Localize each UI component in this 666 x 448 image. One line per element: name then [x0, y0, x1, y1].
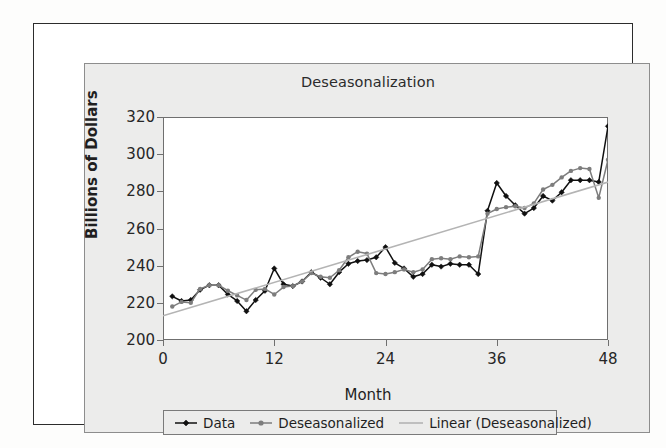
legend-swatch-circle	[249, 417, 273, 429]
x-tick-label: 24	[376, 350, 395, 368]
data-point-marker	[513, 204, 517, 208]
chart-title: Deseasonalization	[85, 74, 651, 90]
data-point-marker	[541, 187, 545, 191]
data-point-marker	[448, 257, 452, 261]
y-tick-label: 240	[117, 257, 155, 275]
data-point-marker	[402, 267, 406, 271]
data-point-marker	[263, 287, 267, 291]
data-point-marker	[587, 177, 592, 182]
series-line	[172, 160, 608, 307]
data-point-marker	[291, 284, 295, 288]
data-point-marker	[495, 207, 499, 211]
chart-canvas	[163, 117, 608, 340]
data-point-marker	[605, 124, 608, 129]
legend-label: Data	[203, 415, 235, 431]
chart-legend: DataDeseasonalizedLinear (Deseasonalized…	[163, 410, 557, 435]
data-point-marker	[550, 183, 554, 187]
data-point-marker	[300, 279, 304, 283]
x-tick-mark	[497, 340, 498, 346]
screenshot-root: Deseasonalization Billions of Dollars 20…	[0, 0, 666, 448]
data-point-marker	[226, 289, 230, 293]
data-point-marker	[383, 272, 387, 276]
plot-border	[164, 118, 608, 340]
data-point-marker	[476, 254, 480, 258]
figure-outer-frame: Deseasonalization Billions of Dollars 20…	[33, 23, 633, 425]
data-point-marker	[216, 283, 220, 287]
data-point-marker	[457, 254, 461, 258]
x-tick-mark	[386, 340, 387, 346]
legend-label: Linear (Deseasonalized)	[429, 415, 592, 431]
data-point-marker	[170, 304, 174, 308]
data-point-marker	[393, 270, 397, 274]
x-tick-mark	[274, 340, 275, 346]
data-point-marker	[179, 300, 183, 304]
y-axis-title: Billions of Dollars	[83, 90, 101, 239]
legend-item-2[interactable]: Deseasonalized	[249, 415, 384, 431]
data-point-marker	[328, 276, 332, 280]
y-tick-mark	[157, 229, 163, 230]
trendline	[163, 182, 608, 316]
series-line	[172, 126, 608, 311]
y-tick-label: 300	[117, 145, 155, 163]
x-tick-label: 36	[487, 350, 506, 368]
legend-label: Deseasonalized	[278, 415, 384, 431]
y-tick-label: 320	[117, 108, 155, 126]
data-point-marker	[189, 301, 193, 305]
data-point-marker	[606, 158, 608, 162]
chart-panel: Deseasonalization Billions of Dollars 20…	[84, 63, 650, 433]
x-tick-label: 12	[265, 350, 284, 368]
legend-swatch-diamond	[174, 417, 198, 429]
data-point-marker	[170, 294, 175, 299]
plot-area	[163, 117, 608, 340]
y-tick-mark	[157, 266, 163, 267]
x-tick-mark	[163, 340, 164, 346]
data-point-marker	[355, 258, 360, 263]
data-point-marker	[207, 283, 211, 287]
series-3	[163, 182, 608, 316]
data-point-marker	[198, 287, 202, 291]
x-tick-label: 0	[158, 350, 168, 368]
data-point-marker	[597, 196, 601, 200]
series-2	[170, 158, 608, 309]
data-point-marker	[485, 211, 489, 215]
data-point-marker	[504, 205, 508, 209]
data-point-marker	[448, 261, 453, 266]
legend-item-1[interactable]: Data	[174, 415, 235, 431]
x-axis-title: Month	[85, 386, 651, 404]
data-point-marker	[430, 257, 434, 261]
y-tick-label: 200	[117, 331, 155, 349]
data-point-marker	[578, 166, 582, 170]
y-tick-label: 220	[117, 294, 155, 312]
data-point-marker	[318, 275, 322, 279]
series-1	[170, 124, 608, 314]
data-point-marker	[355, 250, 359, 254]
data-point-marker	[569, 169, 573, 173]
x-tick-mark	[608, 340, 609, 346]
data-point-marker	[281, 285, 285, 289]
y-tick-mark	[157, 117, 163, 118]
data-point-marker	[467, 255, 471, 259]
legend-swatch-line	[398, 417, 424, 429]
y-tick-label: 280	[117, 182, 155, 200]
y-tick-label: 260	[117, 220, 155, 238]
data-point-marker	[420, 267, 424, 271]
legend-item-3[interactable]: Linear (Deseasonalized)	[398, 415, 592, 431]
data-point-marker	[374, 271, 378, 275]
data-point-marker	[183, 420, 189, 426]
data-point-marker	[337, 268, 341, 272]
data-point-marker	[587, 167, 591, 171]
data-point-marker	[272, 292, 276, 296]
y-tick-mark	[157, 303, 163, 304]
data-point-marker	[559, 175, 563, 179]
data-point-marker	[457, 262, 462, 267]
data-point-marker	[577, 177, 582, 182]
data-point-marker	[438, 264, 443, 269]
y-tick-mark	[157, 154, 163, 155]
data-point-marker	[244, 298, 248, 302]
x-tick-label: 48	[598, 350, 617, 368]
data-point-marker	[439, 256, 443, 260]
data-point-marker	[411, 270, 415, 274]
y-tick-mark	[157, 191, 163, 192]
